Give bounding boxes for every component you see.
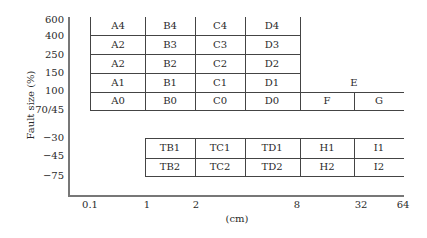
cell-a2: A2 — [111, 58, 125, 70]
cell-td1: TD1 — [261, 142, 282, 154]
cell-e: E — [350, 77, 357, 89]
cell-c4: C4 — [213, 20, 227, 32]
cell-a1: A1 — [111, 77, 125, 89]
x-axis-label: (cm) — [226, 213, 249, 224]
x-tick: 8 — [294, 199, 300, 211]
cell-i1: I1 — [374, 142, 384, 154]
cell-d4: D4 — [265, 20, 279, 32]
x-axis — [68, 195, 404, 197]
cell-d3: D3 — [265, 39, 279, 51]
cell-a2-upper: A2 — [111, 39, 125, 51]
cell-a4: A4 — [111, 20, 125, 32]
cell-d1: D1 — [265, 77, 279, 89]
cell-c0: C0 — [213, 95, 227, 107]
cell-tb2: TB2 — [160, 161, 180, 173]
x-tick: 32 — [355, 199, 368, 211]
cell-a0: A0 — [111, 95, 125, 107]
y-tick: 250 — [45, 49, 64, 61]
cell-d0: D0 — [265, 95, 279, 107]
cell-b3: B3 — [163, 39, 177, 51]
x-tick: 64 — [397, 199, 410, 211]
cell-c3: C3 — [213, 39, 227, 51]
cell-b4: B4 — [163, 20, 177, 32]
cell-d2: D2 — [265, 58, 279, 70]
y-tick: −45 — [43, 150, 64, 162]
y-tick: 600 — [45, 14, 64, 26]
cell-b2: B2 — [163, 58, 177, 70]
cell-c2: C2 — [213, 58, 227, 70]
cell-tb1: TB1 — [160, 142, 180, 154]
cell-tc1: TC1 — [210, 142, 231, 154]
y-tick: −75 — [43, 170, 64, 182]
cell-tc2: TC2 — [210, 161, 231, 173]
y-tick: 150 — [45, 67, 64, 79]
y-tick: 400 — [45, 30, 64, 42]
y-axis — [68, 17, 70, 196]
y-tick: 100 — [45, 85, 64, 97]
y-axis-label: Fault size (%) — [25, 70, 36, 139]
x-tick: 2 — [193, 199, 199, 211]
cell-b1: B1 — [163, 77, 177, 89]
x-tick: 1 — [144, 199, 150, 211]
cell-h2: H2 — [319, 161, 334, 173]
cell-h1: H1 — [319, 142, 334, 154]
x-tick: 0.1 — [82, 199, 98, 211]
cell-td2: TD2 — [261, 161, 282, 173]
cell-i2: I2 — [374, 161, 384, 173]
cell-b0: B0 — [163, 95, 177, 107]
cell-c1: C1 — [213, 77, 227, 89]
cell-f: F — [324, 95, 331, 107]
y-tick: 70/45 — [35, 104, 64, 116]
y-tick: −30 — [43, 132, 64, 144]
cell-g: G — [375, 95, 383, 107]
